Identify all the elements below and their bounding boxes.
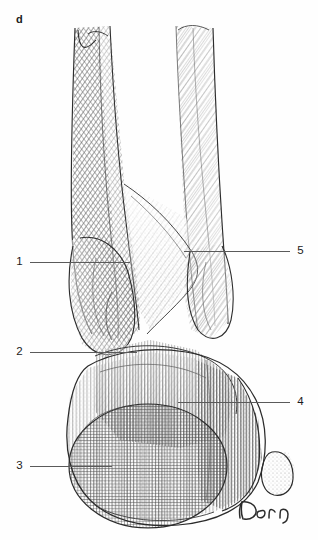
panel-label: d	[16, 14, 23, 25]
ankle-foot-illustration	[0, 0, 318, 540]
figure-panel: d 1 2 3 4 5 Dorn	[0, 0, 318, 540]
artist-signature: Dorn	[236, 498, 296, 524]
